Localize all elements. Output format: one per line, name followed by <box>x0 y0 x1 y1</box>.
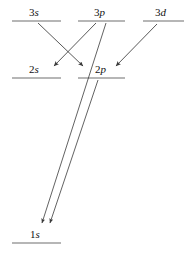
level-label-2p: 2p <box>95 64 106 75</box>
level-label-3d: 3d <box>155 7 166 18</box>
transition-arrow-3d-to-2p <box>116 24 157 66</box>
transition-arrow-3p-to-1s <box>42 23 106 223</box>
energy-diagram-canvas <box>0 0 184 258</box>
level-label-1s-l: s <box>36 228 40 240</box>
level-label-2s: 2s <box>29 64 39 75</box>
level-label-3d-l: d <box>161 6 167 18</box>
level-label-3s: 3s <box>29 7 39 18</box>
energy-level-diagram: 3s 3p 3d 2s 2p 1s <box>0 0 184 258</box>
transition-arrow-group <box>38 23 157 223</box>
level-label-3p: 3p <box>94 7 105 18</box>
level-label-3s-l: s <box>35 6 39 18</box>
level-line-group <box>12 21 184 243</box>
level-label-3p-l: p <box>100 6 106 18</box>
transition-arrow-2p-to-1s <box>50 80 98 223</box>
level-label-1s: 1s <box>30 229 40 240</box>
level-label-2p-l: p <box>101 63 107 75</box>
level-label-2s-l: s <box>35 63 39 75</box>
